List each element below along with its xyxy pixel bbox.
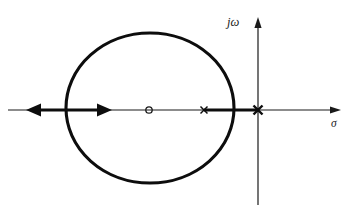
sigma-axis-arrow-icon bbox=[330, 106, 341, 113]
j-omega-axis-label: jω bbox=[225, 15, 239, 29]
root-locus-canvas: jω σ bbox=[0, 0, 353, 205]
locus-right-arrowhead-icon bbox=[97, 104, 112, 117]
locus-left-arrowhead-icon bbox=[26, 104, 41, 117]
j-omega-axis-arrow-icon bbox=[254, 17, 261, 28]
root-locus-figure: jω σ bbox=[0, 0, 353, 205]
locus-branches-group bbox=[26, 33, 259, 183]
sigma-axis-label: σ bbox=[331, 117, 338, 129]
locus-circle-branch bbox=[66, 33, 234, 183]
